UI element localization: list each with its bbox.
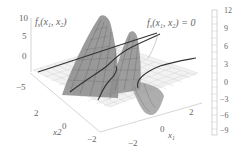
y-tick-0: 0 xyxy=(62,122,67,131)
colorbar-tick-minus-9: −9 xyxy=(220,127,229,135)
colorbar-tick-3: 3 xyxy=(224,61,228,69)
surface-function-label: fs(x1, x2) xyxy=(35,17,67,28)
colorbar-tick-12: 12 xyxy=(224,7,232,15)
x-axis-label: x1 xyxy=(168,131,175,141)
z-tick-5: 5 xyxy=(22,32,27,41)
y-tick-2: 2 xyxy=(34,109,39,118)
z-tick-minus-5: −5 xyxy=(16,83,26,92)
y-axis-label: x2 xyxy=(53,128,62,137)
colorbar-tick-0: 0 xyxy=(224,79,228,87)
z-tick-10: 10 xyxy=(19,14,28,23)
colorbar-tick-minus-3: −3 xyxy=(220,96,229,104)
z-tick-0: 0 xyxy=(22,52,27,61)
colorbar-tick-6: 6 xyxy=(224,43,228,51)
zero-contour-label: fs(x1, x2) = 0 xyxy=(147,18,195,29)
colorbar xyxy=(212,10,217,135)
x-tick-0: 0 xyxy=(160,125,165,134)
y-tick-minus-2: −2 xyxy=(87,135,97,144)
colorbar-tick-9: 9 xyxy=(224,25,228,33)
colorbar-tick-minus-6: −6 xyxy=(220,112,229,120)
x-tick-2: 2 xyxy=(189,108,194,117)
surface-peak-1 xyxy=(62,15,118,99)
x-tick-minus-2: −2 xyxy=(128,139,138,148)
